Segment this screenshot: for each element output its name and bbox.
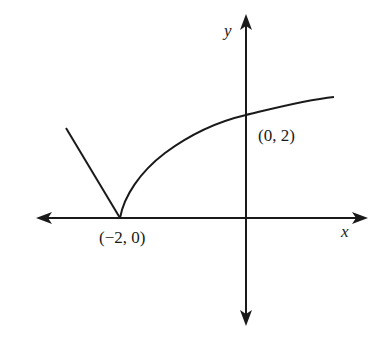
left-branch-line [66, 128, 120, 218]
graph-canvas [0, 0, 382, 349]
right-branch-curve [120, 97, 334, 218]
y-intercept-label: (0, 2) [258, 127, 295, 144]
vertex-label: (−2, 0) [99, 229, 145, 246]
x-axis-label: x [341, 223, 349, 240]
y-axis-label: y [224, 22, 232, 39]
